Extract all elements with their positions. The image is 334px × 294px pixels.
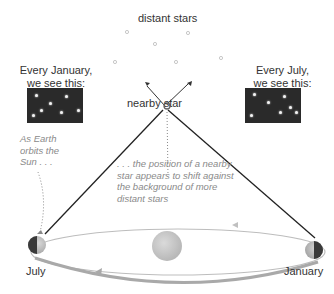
january-view-caption: Every January, we see this: (16, 64, 96, 90)
earth-orbit-annotation: As Earth orbits the Sun . . . (20, 133, 59, 168)
arrow-up-left-icon (145, 82, 150, 86)
sun (152, 231, 182, 261)
caption-line: Every July, (245, 64, 320, 77)
arrow-up-right-icon (187, 81, 192, 86)
january-sky-panel (27, 88, 83, 123)
caption-line: Every January, (16, 64, 96, 77)
annotation-line: As Earth (20, 133, 59, 145)
distant-stars (113, 30, 222, 63)
annotation-line: star appears to shift against (117, 170, 234, 182)
annotation-line: orbits the (20, 145, 59, 157)
annotation-line: the background of more (117, 181, 234, 193)
earth-july (28, 236, 46, 254)
earth-january (305, 241, 323, 259)
dotted-pointer (38, 172, 44, 232)
july-view-caption: Every July, we see this: (245, 64, 320, 90)
july-label: July (26, 265, 46, 278)
annotation-line: Sun . . . (20, 156, 59, 168)
orbit-arrow-icon (232, 222, 238, 228)
january-label: January (284, 265, 323, 278)
distant-stars-label: distant stars (138, 12, 197, 25)
annotation-line: . . . the position of a nearby (117, 158, 234, 170)
nearby-star-label: nearby star (127, 97, 182, 110)
july-sky-panel (245, 88, 301, 123)
annotation-line: distant stars (117, 193, 234, 205)
shift-annotation: . . . the position of a nearby star appe… (117, 158, 234, 204)
